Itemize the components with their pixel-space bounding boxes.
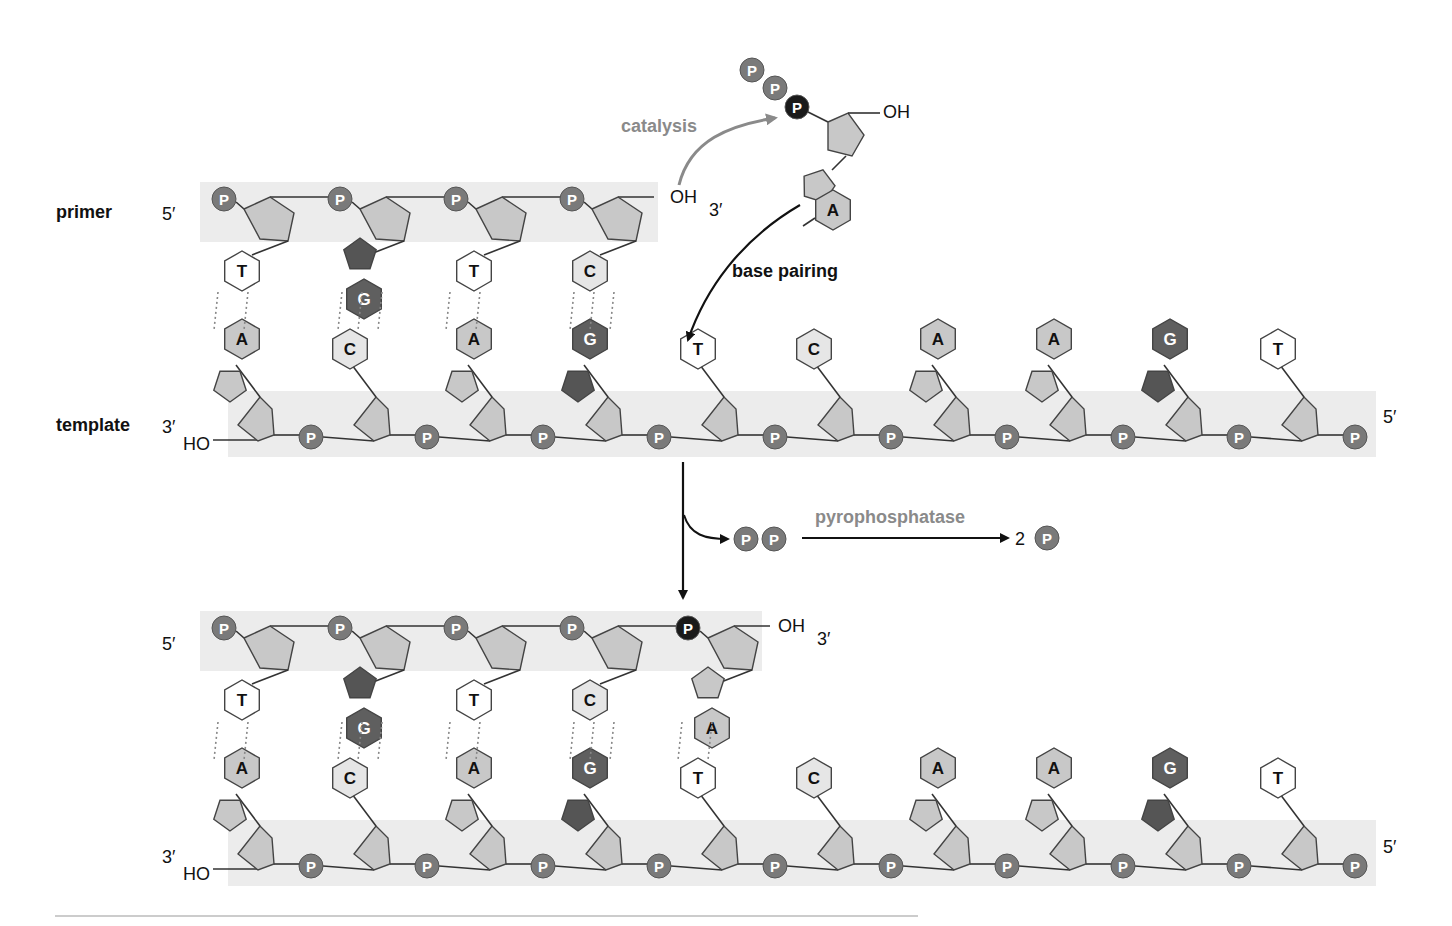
two-label: 2: [1015, 529, 1025, 549]
svg-text:P: P: [335, 620, 345, 637]
base-g-icon: G: [1153, 748, 1188, 788]
svg-text:P: P: [1350, 429, 1360, 446]
svg-text:T: T: [1273, 340, 1284, 359]
svg-text:P: P: [306, 858, 316, 875]
phosphate-icon: P: [444, 616, 468, 640]
template-backbone-band: [228, 391, 1376, 457]
hydrogen-bond: [446, 722, 450, 760]
pyrophosphate-release-arrow: [684, 515, 728, 539]
bottom-template-3prime-label: 3′: [162, 847, 176, 867]
base-a-icon: A: [457, 748, 492, 788]
bottom-primer-5prime-label: 5′: [162, 634, 176, 654]
svg-text:A: A: [236, 759, 248, 778]
phosphate-icon: P: [415, 425, 439, 449]
phosphate-icon: P: [1111, 854, 1135, 878]
catalysis-label: catalysis: [621, 116, 697, 136]
phosphate-icon: P: [995, 854, 1019, 878]
phosphate-icon: P: [531, 425, 555, 449]
phosphate-icon: P: [1227, 854, 1251, 878]
base-t-icon: T: [1261, 329, 1296, 369]
svg-text:P: P: [654, 429, 664, 446]
base-a-icon: A: [921, 748, 956, 788]
phosphate-icon: P: [879, 854, 903, 878]
svg-text:P: P: [1350, 858, 1360, 875]
base-a-icon: A: [225, 319, 260, 359]
base-a-icon: A: [921, 319, 956, 359]
svg-text:P: P: [683, 620, 693, 637]
svg-text:P: P: [335, 191, 345, 208]
base-t-icon: T: [681, 329, 716, 369]
svg-text:G: G: [583, 330, 596, 349]
phosphate-icon: P: [647, 425, 671, 449]
phosphate-icon: P: [299, 854, 323, 878]
base-g-icon: G: [573, 319, 608, 359]
base-c-icon: C: [333, 758, 368, 798]
svg-text:T: T: [693, 769, 704, 788]
svg-text:A: A: [1048, 330, 1060, 349]
svg-text:G: G: [357, 290, 370, 309]
svg-text:P: P: [306, 429, 316, 446]
phosphate-icon: P: [299, 425, 323, 449]
base-a-icon: A: [225, 748, 260, 788]
svg-text:P: P: [1002, 858, 1012, 875]
svg-text:C: C: [344, 340, 356, 359]
hydrogen-bond: [570, 722, 574, 760]
svg-text:P: P: [422, 429, 432, 446]
svg-text:P: P: [1042, 530, 1052, 547]
base-c-icon: C: [333, 329, 368, 369]
base-pairing-label: base pairing: [732, 261, 838, 281]
pyrophosphate-icon: P: [734, 527, 758, 551]
svg-text:P: P: [1234, 858, 1244, 875]
primer-label: primer: [56, 202, 112, 222]
svg-text:P: P: [219, 191, 229, 208]
svg-text:T: T: [237, 262, 248, 281]
hydrogen-bond: [610, 722, 614, 760]
hydrogen-bond: [678, 722, 682, 760]
svg-text:P: P: [741, 531, 751, 548]
base-c-icon: C: [573, 251, 608, 291]
bottom-template-ho-label: HO: [183, 864, 210, 884]
base-c-icon: C: [797, 329, 832, 369]
svg-text:P: P: [567, 620, 577, 637]
template-label: template: [56, 415, 130, 435]
new-phosphate-icon: P: [676, 616, 700, 640]
template-5prime-label: 5′: [1383, 407, 1397, 427]
svg-text:P: P: [770, 429, 780, 446]
base-t-icon: T: [1261, 758, 1296, 798]
phosphate-icon: P: [740, 58, 764, 82]
hydrogen-bond: [214, 292, 218, 330]
phosphate-icon: P: [763, 854, 787, 878]
svg-text:A: A: [932, 330, 944, 349]
hydrogen-bond: [610, 292, 614, 330]
base-a-icon: A: [1037, 748, 1072, 788]
phosphate-icon: P: [763, 76, 787, 100]
svg-text:C: C: [808, 340, 820, 359]
svg-text:P: P: [886, 429, 896, 446]
base-t-icon: T: [225, 251, 260, 291]
svg-text:T: T: [693, 340, 704, 359]
svg-text:P: P: [451, 620, 461, 637]
svg-text:G: G: [357, 719, 370, 738]
template-ho-label: HO: [183, 434, 210, 454]
base-a-icon: A: [1037, 319, 1072, 359]
sugar-icon: [828, 113, 864, 156]
base-a-icon: A: [457, 319, 492, 359]
purine-ring-icon: [344, 238, 376, 269]
phosphate-icon: P: [995, 425, 1019, 449]
template-backbone-band: [228, 820, 1376, 886]
svg-text:T: T: [469, 691, 480, 710]
svg-text:G: G: [583, 759, 596, 778]
phosphate-icon: P: [328, 616, 352, 640]
phosphate-icon: P: [647, 854, 671, 878]
primer-oh-label: OH: [670, 187, 697, 207]
base-t-icon: T: [457, 680, 492, 720]
phosphate-icon: P: [879, 425, 903, 449]
incoming-oh-label: OH: [883, 102, 910, 122]
free-phosphate-icon: P: [1035, 526, 1059, 550]
base-g-icon: G: [347, 279, 382, 319]
phosphate-icon: P: [1343, 425, 1367, 449]
base-g-icon: G: [347, 708, 382, 748]
svg-text:P: P: [1002, 429, 1012, 446]
base-t-icon: T: [681, 758, 716, 798]
svg-text:P: P: [792, 99, 802, 116]
